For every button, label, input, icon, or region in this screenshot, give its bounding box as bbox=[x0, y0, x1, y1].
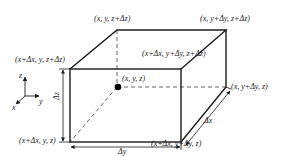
axis-label-x: x bbox=[12, 104, 16, 112]
label-back-top-left: (x, y, z+Δz) bbox=[94, 15, 130, 23]
label-dz: Δz bbox=[53, 92, 61, 100]
label-center-point: (x, y, z) bbox=[122, 75, 145, 83]
label-front-top-left: (x+Δx, y, z+Δz) bbox=[15, 56, 65, 64]
axis-label-z: z bbox=[19, 72, 22, 80]
hidden-edge-diagonal bbox=[70, 87, 117, 142]
axes-triad bbox=[16, 77, 39, 104]
label-front-top-right: (x+Δx, y+Δy, z+Δz) bbox=[142, 50, 206, 58]
right-face-edges bbox=[181, 30, 226, 142]
center-point-marker bbox=[115, 84, 122, 91]
label-dy: Δy bbox=[118, 148, 126, 156]
label-back-top-right: (x, y+Δy, z+Δz) bbox=[200, 15, 250, 23]
label-back-bottom-right: (x, y+Δy, z) bbox=[231, 83, 268, 91]
label-dx: Δx bbox=[204, 117, 212, 125]
control-volume-diagram: (x, y, z+Δz) (x, y+Δy, z+Δz) (x+Δx, y, z… bbox=[0, 0, 289, 156]
label-front-bottom-right: (x+Δx, y+Δy, z) bbox=[151, 140, 201, 148]
axis-label-y: y bbox=[39, 98, 43, 106]
label-front-bottom-left: (x+Δx, y, z) bbox=[19, 137, 56, 145]
x-axis-line bbox=[16, 96, 25, 104]
